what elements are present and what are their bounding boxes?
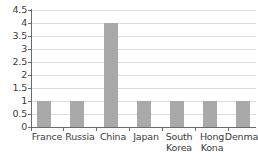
bar-france [37, 101, 51, 127]
gridline-4.5 [31, 10, 256, 11]
bar-russia [70, 101, 84, 127]
y-tick-label-4: 4 [1, 18, 27, 28]
x-axis-labels: France Russia China Japan South Korea Ho… [31, 131, 258, 163]
y-tick-label-2: 2 [1, 70, 27, 80]
bar-chart: 4.5 4 3.5 3 2.5 2 1.5 1 0.5 0 [0, 0, 258, 163]
bar-denmark [236, 101, 250, 127]
gridline-2.5 [31, 62, 256, 63]
bar-south-korea [170, 101, 184, 127]
y-tick-label-0.5: 0.5 [1, 109, 27, 119]
y-tick-label-3.5: 3.5 [1, 31, 27, 41]
y-tick-label-0: 0 [1, 122, 27, 132]
y-tick-label-4.5: 4.5 [1, 5, 27, 15]
y-axis-labels: 4.5 4 3.5 3 2.5 2 1.5 1 0.5 0 [0, 0, 27, 163]
gridline-2 [31, 75, 256, 76]
y-tick-label-1: 1 [1, 96, 27, 106]
bar-china [104, 23, 118, 127]
x-tick-label-denmark: Denmark [223, 131, 258, 142]
gridline-1.5 [31, 88, 256, 89]
y-axis-line [31, 9, 32, 128]
gridline-4 [31, 23, 256, 24]
y-tick-label-1.5: 1.5 [1, 83, 27, 93]
plot-area [31, 10, 256, 127]
gridline-3.5 [31, 36, 256, 37]
bar-japan [137, 101, 151, 127]
y-tick-label-2.5: 2.5 [1, 57, 27, 67]
bar-hong-kona [203, 101, 217, 127]
y-tick-label-3: 3 [1, 44, 27, 54]
x-axis-line [31, 127, 256, 128]
gridline-3 [31, 49, 256, 50]
